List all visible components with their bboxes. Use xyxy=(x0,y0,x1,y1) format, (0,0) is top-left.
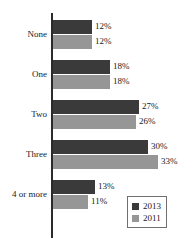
bar-row-2013: 30% xyxy=(53,139,188,154)
category-label: 4 or more xyxy=(0,179,47,209)
legend-swatch-2011 xyxy=(132,215,139,222)
bar-pair: 18% 18% xyxy=(53,59,188,89)
bar-2011 xyxy=(53,75,110,89)
bar-group: Two 27% 26% xyxy=(0,99,188,129)
bar-row-2011: 18% xyxy=(53,74,188,89)
bar-pair: 27% 26% xyxy=(53,99,188,129)
bar-row-2013: 18% xyxy=(53,59,188,74)
bar-row-2013: 13% xyxy=(53,179,188,194)
bar-row-2011: 12% xyxy=(53,34,188,49)
category-label: None xyxy=(0,19,47,49)
bar-group: Three 30% 33% xyxy=(0,139,188,169)
bar-2013 xyxy=(53,180,95,194)
bar-row-2011: 33% xyxy=(53,154,188,169)
bar-2013 xyxy=(53,140,148,154)
legend-item-2011: 2011 xyxy=(132,212,161,224)
bar-pair: 13% 11% xyxy=(53,179,188,209)
bar-value-2013: 27% xyxy=(142,102,159,111)
bar-2013 xyxy=(53,60,110,74)
bar-row-2011: 11% xyxy=(53,194,188,209)
legend-item-2013: 2013 xyxy=(132,200,161,212)
bar-value-2013: 13% xyxy=(98,182,115,191)
bar-value-2011: 26% xyxy=(139,117,156,126)
bar-2013 xyxy=(53,20,92,34)
category-label: Two xyxy=(0,99,47,129)
bar-value-2013: 12% xyxy=(95,22,112,31)
bar-group: None 12% 12% xyxy=(0,19,188,49)
chart-legend: 2013 2011 xyxy=(127,196,167,228)
bar-value-2011: 12% xyxy=(95,37,112,46)
bar-row-2013: 12% xyxy=(53,19,188,34)
legend-swatch-2013 xyxy=(132,203,139,210)
bar-value-2013: 30% xyxy=(151,142,168,151)
grouped-bar-chart: None 12% 12% One 18% xyxy=(0,0,188,246)
bar-pair: 30% 33% xyxy=(53,139,188,169)
bar-group: One 18% 18% xyxy=(0,59,188,89)
category-label: Three xyxy=(0,139,47,169)
bar-value-2011: 33% xyxy=(161,157,178,166)
legend-label-2011: 2011 xyxy=(143,214,161,223)
bar-2011 xyxy=(53,155,158,169)
bar-row-2011: 26% xyxy=(53,114,188,129)
bar-pair: 12% 12% xyxy=(53,19,188,49)
bar-2011 xyxy=(53,115,136,129)
bar-2011 xyxy=(53,35,92,49)
bar-value-2011: 11% xyxy=(91,197,107,206)
bar-2011 xyxy=(53,195,88,209)
bar-value-2013: 18% xyxy=(113,62,130,71)
bar-row-2013: 27% xyxy=(53,99,188,114)
bar-2013 xyxy=(53,100,139,114)
plot-area: None 12% 12% One 18% xyxy=(0,19,188,209)
legend-label-2013: 2013 xyxy=(143,202,161,211)
bar-value-2011: 18% xyxy=(113,77,130,86)
category-label: One xyxy=(0,59,47,89)
